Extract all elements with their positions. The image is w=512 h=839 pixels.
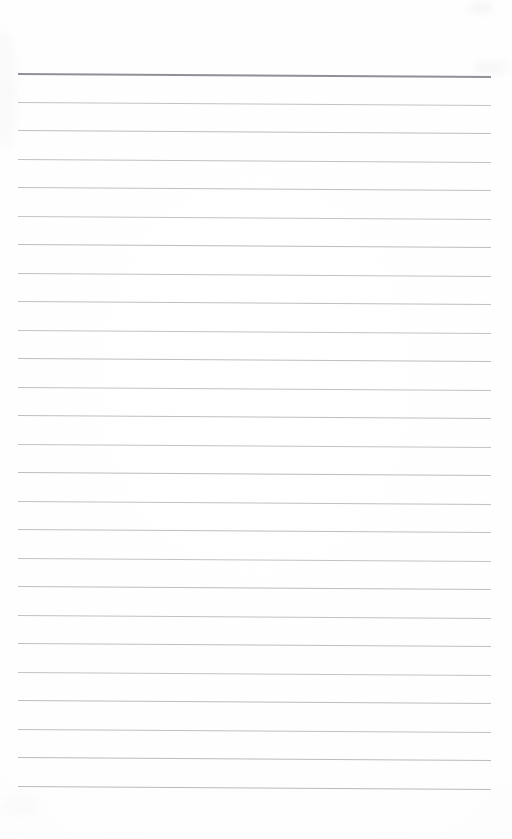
- ruled-line: [18, 244, 491, 248]
- header-rule-line: [18, 73, 491, 78]
- ruled-line: [18, 444, 491, 448]
- ruled-line: [18, 330, 491, 334]
- ruled-line: [18, 216, 491, 220]
- ruled-line: [18, 301, 491, 305]
- ruled-line: [18, 558, 491, 562]
- ruled-line: [18, 159, 491, 163]
- ruled-line: [18, 472, 491, 476]
- scanned-page: [0, 0, 512, 839]
- ruled-line: [18, 415, 491, 419]
- ruled-line: [18, 501, 491, 505]
- ruled-line: [18, 643, 491, 647]
- ruled-line: [18, 729, 491, 733]
- ruled-line: [18, 615, 491, 619]
- ruled-line: [18, 586, 491, 590]
- ruled-line: [18, 757, 491, 761]
- ruled-lines-layer: [0, 0, 512, 839]
- ruled-line: [18, 387, 491, 391]
- ruled-line: [18, 786, 491, 790]
- ruled-line: [18, 273, 491, 277]
- ruled-line: [18, 529, 491, 533]
- ruled-line: [18, 358, 491, 362]
- ruled-line: [18, 672, 491, 676]
- ruled-line: [18, 102, 491, 106]
- ruled-line: [18, 187, 491, 191]
- ruled-line: [18, 130, 491, 134]
- ruled-line: [18, 700, 491, 704]
